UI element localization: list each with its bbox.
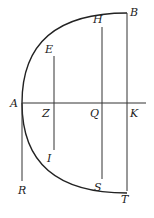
label-H: H xyxy=(92,13,103,26)
label-R: R xyxy=(17,184,26,197)
label-Z: Z xyxy=(41,107,50,120)
label-S: S xyxy=(94,181,102,194)
label-A: A xyxy=(9,97,18,110)
label-I: I xyxy=(46,152,52,165)
label-T: T xyxy=(121,193,130,206)
parabola-diagram: B H E A Z Q K I R S T xyxy=(0,0,154,218)
label-B: B xyxy=(129,6,138,19)
label-E: E xyxy=(44,43,53,56)
label-K: K xyxy=(129,107,139,120)
label-Q: Q xyxy=(90,107,99,120)
